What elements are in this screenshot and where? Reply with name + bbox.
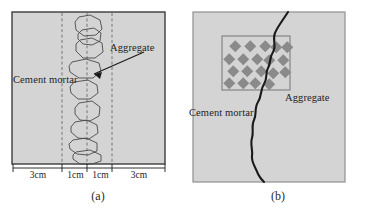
panel-a xyxy=(12,12,165,172)
figure-container: Cement mortar Aggregate 3cm 1cm 1cm 3cm … xyxy=(0,0,367,212)
panel-b-caption: (b) xyxy=(248,189,308,204)
figure-svg xyxy=(0,0,367,212)
panel-a-dimension-label-left-mortar: 3cm xyxy=(14,170,62,180)
panel-a-cement-mortar-label: Cement mortar xyxy=(13,74,78,85)
panel-a-aggregate-label: Aggregate xyxy=(110,42,155,53)
panel-b-cement-mortar-label: Cement mortar xyxy=(189,107,254,118)
panel-a-dimension-label-right-interface: 1cm xyxy=(88,170,113,180)
panel-a-dimension-label-left-interface: 1cm xyxy=(63,170,88,180)
panel-a-specimen-body xyxy=(12,12,165,164)
panel-a-dimension-label-right-mortar: 3cm xyxy=(113,170,165,180)
panel-a-caption: (a) xyxy=(68,189,128,204)
panel-b-aggregate-label: Aggregate xyxy=(285,92,330,103)
